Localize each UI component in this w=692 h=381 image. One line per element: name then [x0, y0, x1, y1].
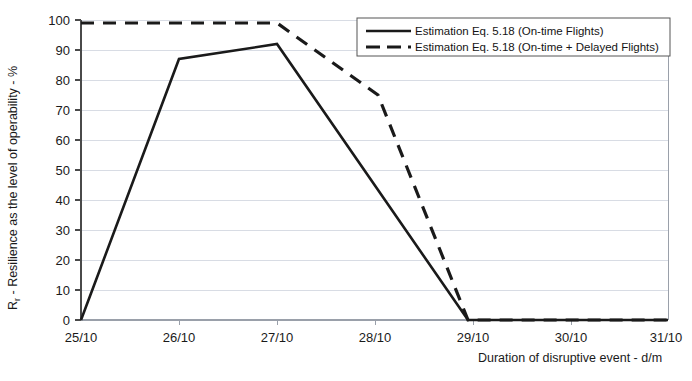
y-axis-title: Rr - Resilience as the level of operabil…	[6, 66, 22, 310]
y-tick-label-20: 20	[56, 253, 70, 268]
x-tick-label-27-10: 27/10	[261, 330, 294, 345]
legend-label-on-time-plus-delayed: Estimation Eq. 5.18 (On-time + Delayed F…	[415, 41, 659, 53]
y-axis-title-main: R	[6, 301, 20, 310]
legend: Estimation Eq. 5.18 (On-time Flights) Es…	[357, 18, 670, 56]
x-axis-title: Duration of disruptive event - d/m	[478, 351, 662, 365]
y-tick-label-0: 0	[63, 313, 70, 328]
y-tick-label-70: 70	[56, 103, 70, 118]
x-tick-label-30-10: 30/10	[555, 330, 588, 345]
y-tick-label-60: 60	[56, 133, 70, 148]
y-tick-label-80: 80	[56, 73, 70, 88]
y-tick-label-100: 100	[48, 13, 70, 28]
y-tick-label-10: 10	[56, 283, 70, 298]
chart-background	[0, 0, 692, 381]
chart-figure: 100 90 80 70 60 50 40 30 20 10 0 25/10 2…	[0, 0, 692, 381]
x-tick-label-29-10: 29/10	[457, 330, 490, 345]
resilience-line-chart: 100 90 80 70 60 50 40 30 20 10 0 25/10 2…	[0, 0, 692, 381]
y-tick-label-50: 50	[56, 163, 70, 178]
x-tick-label-31-10: 31/10	[650, 330, 683, 345]
legend-label-on-time: Estimation Eq. 5.18 (On-time Flights)	[415, 25, 604, 37]
y-tick-label-30: 30	[56, 223, 70, 238]
y-tick-label-40: 40	[56, 193, 70, 208]
svg-text:Rr - Resilience as the level o: Rr - Resilience as the level of operabil…	[6, 66, 22, 310]
x-tick-label-26-10: 26/10	[163, 330, 196, 345]
y-axis-title-rest: - Resilience as the level of operability…	[6, 66, 20, 298]
y-tick-label-90: 90	[56, 43, 70, 58]
x-tick-label-28-10: 28/10	[359, 330, 392, 345]
x-tick-label-25-10: 25/10	[65, 330, 98, 345]
